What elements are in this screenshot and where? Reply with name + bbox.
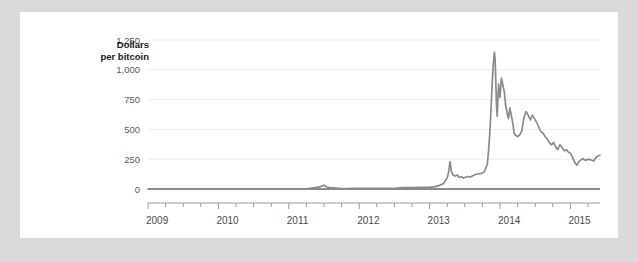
x-axis-tick-label: 2012	[357, 215, 380, 226]
x-axis-tick-label: 2010	[216, 215, 239, 226]
figure-card: 02505007501,0001,250 Dollars per bitcoin…	[20, 12, 618, 238]
bitcoin-price-chart: 02505007501,0001,250 Dollars per bitcoin…	[20, 12, 618, 238]
y-axis-tick-label: 750	[124, 94, 140, 105]
x-axis-tick-labels: 2009201020112012201320142015	[146, 215, 591, 226]
x-axis-tick-label: 2011	[287, 215, 309, 226]
y-axis-title: Dollars per bitcoin	[100, 39, 149, 62]
x-axis-tick-label: 2013	[428, 215, 451, 226]
x-axis-tick-marks	[148, 203, 588, 209]
y-axis-tick-label: 0	[135, 184, 140, 195]
x-axis: 2009201020112012201320142015	[146, 203, 600, 226]
y-axis-tick-label: 250	[124, 154, 140, 165]
y-axis-title-line2: per bitcoin	[100, 51, 149, 62]
x-axis-tick-label: 2015	[568, 215, 591, 226]
y-axis-title-line1: Dollars	[117, 39, 149, 50]
x-axis-tick-label: 2009	[146, 215, 169, 226]
x-axis-tick-label: 2014	[498, 215, 521, 226]
price-series-line	[148, 52, 600, 189]
y-axis-tick-label: 1,000	[116, 64, 140, 75]
y-axis-tick-label: 500	[124, 124, 140, 135]
